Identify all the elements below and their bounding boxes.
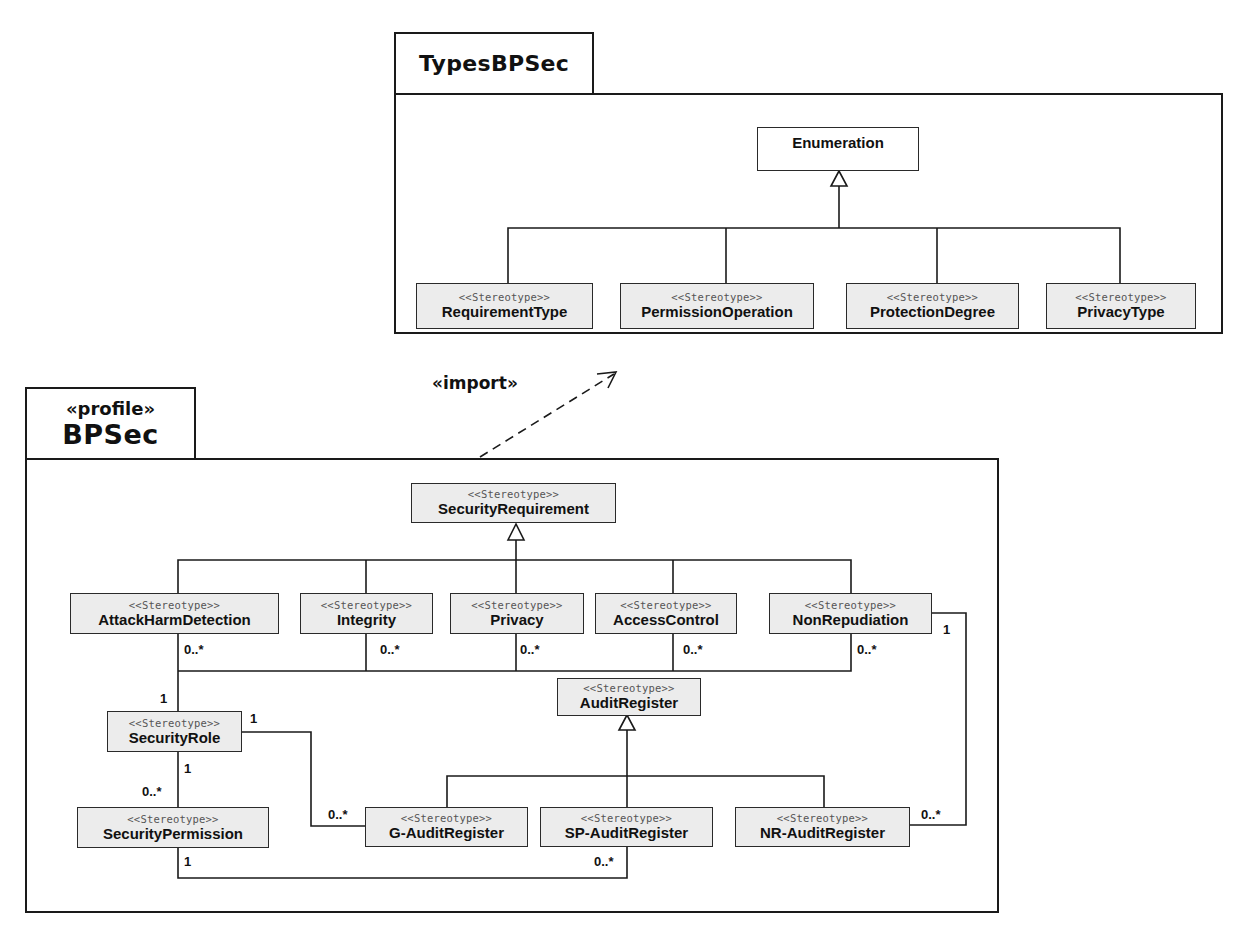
class-sp-auditregister[interactable]: <<Stereotype>> SP-AuditRegister	[540, 807, 713, 847]
multiplicity-role-gaudit-role-end: 1	[250, 712, 257, 726]
profile-package-name: BPSec	[62, 420, 159, 450]
stereotype-label: <<Stereotype>>	[583, 682, 674, 694]
stereotype-label: <<Stereotype>>	[459, 291, 550, 303]
class-name: AttackHarmDetection	[98, 611, 251, 629]
stereotype-label: <<Stereotype>>	[1075, 291, 1166, 303]
multiplicity-privacy: 0..*	[520, 643, 540, 657]
class-privacytype[interactable]: <<Stereotype>> PrivacyType	[1046, 283, 1196, 329]
multiplicity-accesscontrol: 0..*	[683, 643, 703, 657]
class-privacy[interactable]: <<Stereotype>> Privacy	[450, 593, 584, 634]
multiplicity-integrity: 0..*	[380, 643, 400, 657]
class-name: PermissionOperation	[641, 303, 793, 321]
multiplicity-role-requirements: 1	[160, 692, 167, 706]
profile-package-tab: «profile» BPSec	[25, 387, 196, 460]
class-nonrepudiation[interactable]: <<Stereotype>> NonRepudiation	[769, 593, 932, 634]
stereotype-label: <<Stereotype>>	[471, 599, 562, 611]
class-integrity[interactable]: <<Stereotype>> Integrity	[300, 593, 433, 634]
class-protectiondegree[interactable]: <<Stereotype>> ProtectionDegree	[846, 283, 1019, 329]
class-name: AuditRegister	[580, 694, 678, 712]
multiplicity-permission-spaudit-audit-end: 0..*	[594, 855, 614, 869]
class-name: SecurityRequirement	[438, 500, 589, 518]
stereotype-label: <<Stereotype>>	[468, 488, 559, 500]
multiplicity-nonrep-nraudit-nonrep-end: 1	[943, 623, 950, 637]
multiplicity-role-permission-perm-end: 0..*	[142, 785, 162, 799]
class-name: G-AuditRegister	[389, 824, 504, 842]
stereotype-label: <<Stereotype>>	[129, 599, 220, 611]
class-accesscontrol[interactable]: <<Stereotype>> AccessControl	[595, 593, 737, 634]
class-name: AccessControl	[613, 611, 719, 629]
multiplicity-nonrepudiation: 0..*	[857, 643, 877, 657]
types-package-tab: TypesBPSec	[394, 32, 594, 95]
class-securityrequirement[interactable]: <<Stereotype>> SecurityRequirement	[411, 483, 616, 523]
class-name: ProtectionDegree	[870, 303, 995, 321]
class-securitypermission[interactable]: <<Stereotype>> SecurityPermission	[77, 807, 269, 848]
class-g-auditregister[interactable]: <<Stereotype>> G-AuditRegister	[365, 807, 528, 847]
enumeration-class-name: Enumeration	[792, 134, 884, 152]
stereotype-label: <<Stereotype>>	[805, 599, 896, 611]
class-name: PrivacyType	[1077, 303, 1164, 321]
stereotype-label: <<Stereotype>>	[401, 812, 492, 824]
multiplicity-role-gaudit-audit-end: 0..*	[328, 808, 348, 822]
multiplicity-attackharmdetection: 0..*	[184, 643, 204, 657]
class-nr-auditregister[interactable]: <<Stereotype>> NR-AuditRegister	[735, 807, 910, 847]
class-name: NonRepudiation	[793, 611, 909, 629]
class-name: Privacy	[490, 611, 543, 629]
stereotype-label: <<Stereotype>>	[321, 599, 412, 611]
multiplicity-role-permission-role-end: 1	[184, 762, 191, 776]
import-label: «import»	[432, 373, 518, 393]
stereotype-label: <<Stereotype>>	[581, 812, 672, 824]
class-name: RequirementType	[442, 303, 568, 321]
stereotype-label: <<Stereotype>>	[620, 599, 711, 611]
class-attackharmdetection[interactable]: <<Stereotype>> AttackHarmDetection	[70, 593, 279, 634]
class-requirementtype[interactable]: <<Stereotype>> RequirementType	[416, 283, 593, 329]
class-securityrole[interactable]: <<Stereotype>> SecurityRole	[107, 711, 242, 752]
class-name: SecurityPermission	[103, 825, 243, 843]
stereotype-label: <<Stereotype>>	[127, 813, 218, 825]
stereotype-label: <<Stereotype>>	[671, 291, 762, 303]
class-name: Integrity	[337, 611, 396, 629]
types-package-name: TypesBPSec	[419, 51, 569, 76]
class-name: SP-AuditRegister	[565, 824, 688, 842]
class-auditregister[interactable]: <<Stereotype>> AuditRegister	[557, 678, 701, 716]
class-name: NR-AuditRegister	[760, 824, 885, 842]
profile-stereotype: «profile»	[66, 398, 155, 420]
multiplicity-permission-spaudit-perm-end: 1	[184, 855, 191, 869]
enumeration-class[interactable]: Enumeration	[757, 127, 919, 171]
stereotype-label: <<Stereotype>>	[129, 717, 220, 729]
multiplicity-nonrep-nraudit-audit-end: 0..*	[921, 808, 941, 822]
stereotype-label: <<Stereotype>>	[777, 812, 868, 824]
class-permissionoperation[interactable]: <<Stereotype>> PermissionOperation	[620, 283, 814, 329]
stereotype-label: <<Stereotype>>	[887, 291, 978, 303]
class-name: SecurityRole	[129, 729, 221, 747]
